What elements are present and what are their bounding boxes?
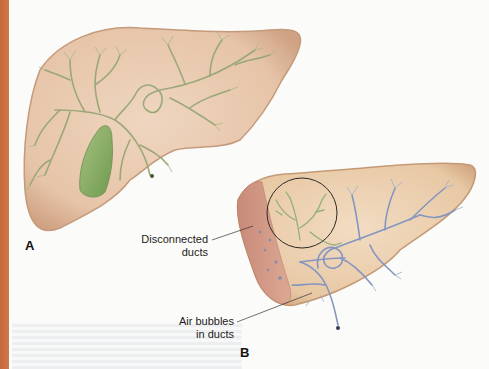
label-line: Air bubbles: [160, 315, 234, 328]
label-line: Disconnected: [130, 233, 208, 246]
liver-b: [237, 163, 475, 330]
label-line: in ducts: [160, 328, 234, 341]
label-air-bubbles: Air bubbles in ducts: [160, 315, 234, 341]
label-line: ducts: [130, 246, 208, 259]
panel-label-b: B: [240, 345, 249, 360]
liver-diagram: [0, 0, 489, 369]
panel-label-a: A: [25, 238, 34, 253]
label-disconnected-ducts: Disconnected ducts: [130, 233, 208, 259]
